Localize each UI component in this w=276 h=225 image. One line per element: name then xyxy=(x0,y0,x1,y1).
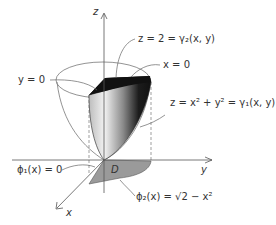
region-d-label: D xyxy=(111,165,119,175)
y-plane-label: y = 0 xyxy=(18,75,45,85)
z-axis-label: z xyxy=(93,7,98,17)
x-axis xyxy=(57,160,104,208)
top-surface-label: z = 2 = γ₂(x, y) xyxy=(138,34,215,44)
phi1-label: ϕ₁(x) = 0 xyxy=(17,165,62,175)
bottom-surface-label: z = x² + y² = γ₁(x, y) xyxy=(170,98,275,108)
phi2-label: ϕ₂(x) = √2 − x² xyxy=(136,192,212,202)
x-axis-label: x xyxy=(66,208,72,218)
y-axis-label: y xyxy=(201,165,207,175)
x-plane-label: x = 0 xyxy=(163,60,190,70)
